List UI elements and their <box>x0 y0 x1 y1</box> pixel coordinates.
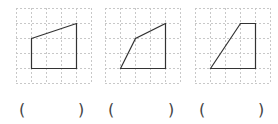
figure-2-grid <box>105 8 180 83</box>
answer-2-close-paren: ) <box>168 100 174 120</box>
figure-3-svg <box>195 8 270 83</box>
answer-3-open-paren: ( <box>199 100 205 120</box>
answer-2-open-paren: ( <box>108 100 114 120</box>
figure-2-shape <box>121 24 166 69</box>
answer-1-close-paren: ) <box>78 100 84 120</box>
answer-1-open-paren: ( <box>19 100 25 120</box>
figure-1-shape <box>32 24 77 69</box>
figure-2-svg <box>105 8 180 83</box>
figure-3-grid <box>195 8 270 83</box>
answer-3-close-paren: ) <box>258 100 264 120</box>
figure-1-grid <box>16 8 91 83</box>
figure-3-shape <box>211 24 256 69</box>
figure-1-svg <box>16 8 91 83</box>
